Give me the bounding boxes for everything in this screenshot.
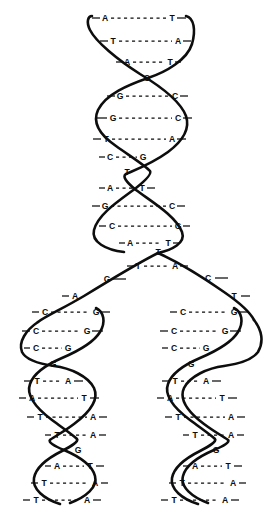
base-letter: A — [92, 478, 98, 488]
base-letter-crossover: G — [144, 73, 151, 83]
base-letter: T — [41, 478, 47, 488]
base-letter: C — [33, 343, 39, 353]
base-letter: A — [107, 183, 113, 193]
dna-helix-svg: A T T A A T G G — [0, 0, 280, 515]
base-letter: T — [192, 430, 198, 440]
base-letter-unpaired: T — [231, 291, 237, 301]
base-letter: A — [169, 134, 175, 144]
base-letter: G — [93, 307, 100, 317]
base-letter-unpaired: A — [72, 291, 78, 301]
base-letter: G — [65, 343, 72, 353]
base-letter: G — [102, 201, 109, 211]
base-letter: A — [90, 430, 96, 440]
base-letter: G — [231, 307, 238, 317]
base-letter: G — [117, 91, 124, 101]
base-letter: C — [175, 113, 181, 123]
base-letter-crossover: G — [188, 359, 195, 369]
base-letter-fork-apex: T — [155, 247, 161, 257]
base-letter-crossover: T — [124, 167, 130, 177]
base-letter: G — [110, 113, 117, 123]
base-letter: T — [172, 376, 178, 386]
base-letter: T — [34, 376, 40, 386]
base-letter: T — [87, 461, 93, 471]
base-letter-crossover: G — [75, 445, 82, 455]
parent-double-helix: A T T A A T G G — [88, 13, 194, 253]
base-letter: A — [228, 430, 234, 440]
base-letter: G — [222, 326, 229, 336]
base-letter: C — [107, 152, 113, 162]
base-letter: T — [219, 393, 225, 403]
base-letter: A — [54, 461, 60, 471]
base-letter: T — [135, 261, 141, 271]
base-letter: C — [109, 221, 115, 231]
base-letter: A — [65, 376, 71, 386]
base-letter: T — [110, 36, 116, 46]
base-letter: T — [167, 57, 173, 67]
base-letter: A — [127, 238, 133, 248]
base-letter: T — [175, 412, 181, 422]
base-letter: C — [42, 307, 48, 317]
base-letter: C — [172, 91, 178, 101]
base-letter: C — [169, 201, 175, 211]
base-letter: A — [29, 393, 35, 403]
base-letter: G — [175, 221, 182, 231]
replication-fork: T T A G A C T — [38, 247, 254, 322]
base-letter: T — [54, 430, 60, 440]
base-letter: A — [102, 13, 108, 23]
base-letter: A — [175, 36, 181, 46]
base-letter: A — [192, 461, 198, 471]
daughter-helix-right: C G C G C G G T A A — [157, 307, 261, 505]
base-letter-crossover: G — [213, 445, 220, 455]
base-letter: T — [81, 393, 87, 403]
base-letter: C — [171, 326, 177, 336]
base-letter: T — [225, 461, 231, 471]
dna-replication-figure: A T T A A T G G — [0, 0, 280, 515]
base-letter-crossover: G — [50, 359, 57, 369]
base-letter: G — [140, 152, 147, 162]
base-letter: A — [167, 393, 173, 403]
base-letter: A — [230, 478, 236, 488]
base-letter: G — [203, 343, 210, 353]
base-letter: T — [179, 478, 185, 488]
base-letter: C — [33, 326, 39, 336]
base-letter: T — [165, 238, 171, 248]
base-letter: C — [171, 343, 177, 353]
daughter-helix-left: C G C G C G G T A A — [19, 307, 110, 505]
base-letter: T — [37, 412, 43, 422]
base-letter: A — [90, 412, 96, 422]
figure-caption — [0, 503, 280, 515]
base-letter-unpaired: C — [205, 273, 211, 283]
base-letter: A — [124, 57, 130, 67]
daughter-right-backbone-strand-b — [167, 308, 241, 504]
base-letter: T — [103, 134, 109, 144]
base-letter: A — [203, 376, 209, 386]
base-letter-unpaired: G — [104, 274, 111, 284]
base-letter: G — [84, 326, 91, 336]
base-letter: C — [180, 307, 186, 317]
base-letter: A — [172, 261, 178, 271]
base-letter: T — [139, 183, 145, 193]
base-letter: A — [228, 412, 234, 422]
base-letter: T — [169, 13, 175, 23]
